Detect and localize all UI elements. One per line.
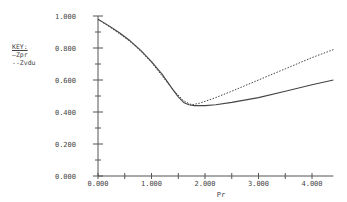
y-tick-label: 0.200	[55, 141, 76, 149]
x-tick-label: 0.000	[87, 180, 108, 188]
series-lines	[98, 19, 333, 105]
legend-item-zvdu: --Zvdu	[12, 59, 35, 67]
y-tick-label: 0.600	[55, 77, 76, 85]
legend: KEY: —Zpr --Zvdu	[12, 43, 35, 67]
y-tick-label: 0.800	[55, 45, 76, 53]
series-zpr	[98, 19, 333, 105]
x-tick-label: 4.000	[301, 180, 322, 188]
tick-labels: 0.0000.2000.4000.6000.8001.0000.0001.000…	[55, 13, 323, 189]
y-tick-label: 0.000	[55, 173, 76, 181]
series-zvdu	[98, 19, 333, 105]
legend-item-zpr: —Zpr	[12, 51, 35, 59]
x-tick-label: 3.000	[248, 180, 269, 188]
x-tick-label: 2.000	[194, 180, 215, 188]
x-axis-title: Pr	[217, 191, 225, 199]
y-tick-label: 0.400	[55, 109, 76, 117]
legend-title: KEY:	[12, 43, 35, 51]
line-chart: 0.0000.2000.4000.6000.8001.0000.0001.000…	[0, 0, 347, 202]
x-tick-label: 1.000	[141, 180, 162, 188]
y-tick-label: 1.000	[55, 13, 76, 21]
